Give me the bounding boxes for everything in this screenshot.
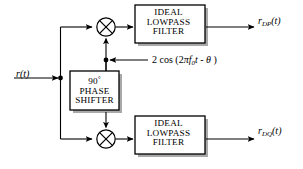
input-signal-arg: (t) bbox=[20, 68, 29, 79]
phase-shifter-label: 90° PHASE SHIFTER bbox=[68, 74, 121, 106]
bottom-output-label: rDQ(t) bbox=[258, 125, 281, 138]
carrier-close-paren: ) bbox=[214, 54, 217, 65]
top-output-subscript: DP bbox=[262, 20, 271, 28]
bottom-filter-label: IDEAL LOWPASS FILTER bbox=[133, 119, 204, 148]
carrier-time-symbol: t bbox=[195, 54, 198, 65]
bottom-filter-label-line3: FILTER bbox=[133, 138, 204, 148]
carrier-minus-sign: - bbox=[200, 54, 203, 65]
degree-icon: ° bbox=[98, 75, 101, 82]
top-filter-label: IDEAL LOWPASS FILTER bbox=[133, 8, 204, 37]
carrier-expression-label: 2 cos (2πf0t - θ ) bbox=[152, 54, 217, 67]
top-filter-label-line3: FILTER bbox=[133, 27, 204, 37]
phase-shifter-label-line3: SHIFTER bbox=[68, 96, 121, 106]
carrier-function: cos bbox=[160, 54, 173, 65]
top-output-label: rDP(t) bbox=[258, 15, 281, 28]
top-output-arg: (t) bbox=[271, 15, 280, 26]
phase-shifter-label-line1: 90° bbox=[68, 74, 121, 87]
bottom-output-subscript: DQ bbox=[262, 130, 272, 138]
diagram-text-layer: r(t) IDEAL LOWPASS FILTER IDEAL LOWPASS … bbox=[0, 0, 303, 169]
carrier-theta-symbol: θ bbox=[206, 54, 211, 65]
bottom-output-arg: (t) bbox=[272, 125, 281, 136]
phase-shifter-angle-value: 90 bbox=[88, 76, 98, 86]
carrier-amplitude: 2 bbox=[152, 54, 157, 65]
block-diagram-canvas: r(t) IDEAL LOWPASS FILTER IDEAL LOWPASS … bbox=[0, 0, 303, 169]
input-signal-label: r(t) bbox=[16, 68, 29, 79]
